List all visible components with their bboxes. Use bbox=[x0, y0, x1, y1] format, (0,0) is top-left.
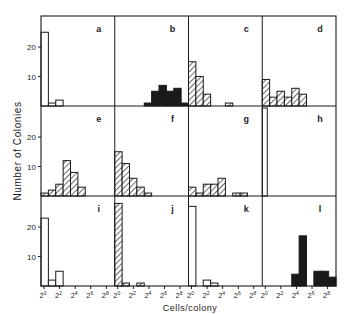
panel-h: h bbox=[262, 108, 323, 196]
histogram-bar bbox=[270, 97, 277, 106]
panel-label: e bbox=[96, 114, 101, 124]
histogram-bar bbox=[115, 203, 122, 286]
x-tick-label: 22 bbox=[129, 290, 136, 300]
panel-c: c bbox=[189, 24, 249, 106]
histogram-bar bbox=[329, 277, 336, 286]
histogram-bar bbox=[56, 100, 63, 106]
panel-label: k bbox=[244, 204, 250, 214]
histogram-bar bbox=[41, 218, 48, 286]
panel-a: a bbox=[41, 24, 102, 106]
x-tick-label: 26 bbox=[308, 290, 315, 300]
histogram-bar bbox=[48, 190, 55, 196]
histogram-bar bbox=[299, 236, 306, 286]
x-tick-label: 20 bbox=[113, 290, 120, 300]
y-tick-label: 10 bbox=[27, 163, 36, 172]
histogram-bar bbox=[48, 280, 55, 286]
histogram-bar bbox=[189, 206, 196, 286]
histogram-bar bbox=[262, 108, 267, 196]
x-tick-label: 24 bbox=[71, 290, 78, 300]
panel-e: e bbox=[41, 114, 101, 196]
panel-l: l bbox=[292, 204, 336, 286]
histogram-bar bbox=[159, 85, 166, 106]
histogram-bar bbox=[166, 91, 173, 106]
panel-b: b bbox=[144, 24, 188, 106]
y-tick-label: 20 bbox=[27, 133, 36, 142]
histogram-bar bbox=[292, 88, 299, 106]
y-tick-label: 10 bbox=[27, 73, 36, 82]
panel-k: k bbox=[189, 204, 250, 286]
histogram-bar bbox=[63, 161, 70, 196]
x-tick-label: 26 bbox=[234, 290, 241, 300]
histogram-bar bbox=[203, 94, 210, 106]
histogram-bar bbox=[174, 88, 181, 106]
panel-label: b bbox=[170, 24, 176, 34]
histogram-bar bbox=[56, 184, 63, 196]
y-tick-label: 20 bbox=[27, 43, 36, 52]
x-tick-label: 22 bbox=[203, 290, 210, 300]
panel-label: j bbox=[170, 204, 174, 214]
histogram-bar bbox=[115, 152, 122, 196]
panel-j: j bbox=[115, 203, 174, 286]
histogram-bar bbox=[71, 172, 78, 196]
panel-label: h bbox=[317, 114, 323, 124]
histogram-bar bbox=[189, 62, 196, 106]
y-tick-label: 20 bbox=[27, 223, 36, 232]
histogram-bar bbox=[203, 184, 210, 196]
histogram-bar bbox=[321, 271, 328, 286]
x-tick-label: 24 bbox=[292, 290, 299, 300]
histogram-bar bbox=[78, 187, 85, 196]
histogram-bar bbox=[203, 280, 210, 286]
histogram-bar bbox=[277, 91, 284, 106]
x-tick-label: 24 bbox=[144, 290, 151, 300]
x-tick-label: 22 bbox=[55, 290, 62, 300]
x-tick-label: 28 bbox=[249, 290, 256, 300]
histogram-bar bbox=[292, 274, 299, 286]
histogram-bar bbox=[284, 97, 291, 106]
x-tick-label: 26 bbox=[160, 290, 167, 300]
histogram-bar bbox=[299, 94, 306, 106]
x-tick-label: 22 bbox=[276, 290, 283, 300]
panel-label: a bbox=[96, 24, 102, 34]
x-tick-label: 28 bbox=[176, 290, 183, 300]
histogram-figure: abcdefghijkl 102010201020202224262820222… bbox=[0, 0, 349, 315]
x-tick-label: 24 bbox=[218, 290, 225, 300]
y-tick-label: 10 bbox=[27, 253, 36, 262]
histogram-bar bbox=[189, 187, 196, 196]
x-axis-label: Cells/colony bbox=[163, 303, 218, 313]
y-axis-label: Number of Colonies bbox=[12, 101, 23, 200]
x-tick-label: 20 bbox=[261, 290, 268, 300]
histogram-bar bbox=[137, 187, 144, 196]
x-tick-label: 26 bbox=[86, 290, 93, 300]
panel-d: d bbox=[262, 24, 323, 106]
x-tick-label: 20 bbox=[187, 290, 194, 300]
panel-f: f bbox=[115, 114, 175, 196]
panel-label: i bbox=[98, 204, 101, 214]
x-tick-label: 28 bbox=[102, 290, 109, 300]
x-tick-label: 20 bbox=[40, 290, 47, 300]
panel-i: i bbox=[41, 204, 100, 286]
panel-label: l bbox=[319, 204, 322, 214]
panel-label: d bbox=[317, 24, 323, 34]
histogram-bar bbox=[262, 79, 269, 106]
histogram-bar bbox=[122, 164, 129, 196]
panel-label: f bbox=[171, 114, 175, 124]
histogram-bar bbox=[41, 32, 48, 106]
panel-label: g bbox=[244, 114, 250, 124]
axes: 1020102010202022242628202224262820222426… bbox=[27, 16, 336, 300]
histogram-bar bbox=[314, 271, 321, 286]
panel-g: g bbox=[189, 114, 250, 196]
x-tick-label: 28 bbox=[323, 290, 330, 300]
histogram-bar bbox=[211, 184, 218, 196]
histogram-bar bbox=[196, 77, 203, 107]
histogram-bar bbox=[152, 91, 159, 106]
histogram-bar bbox=[218, 178, 225, 196]
panel-label: c bbox=[244, 24, 249, 34]
histogram-bar bbox=[130, 178, 137, 196]
histogram-bar bbox=[56, 271, 63, 286]
